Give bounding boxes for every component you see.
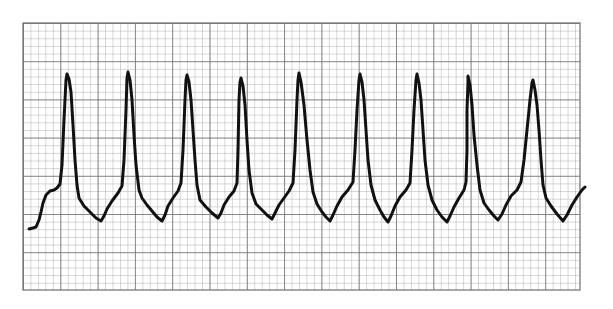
major-grid xyxy=(23,23,580,290)
ecg-strip xyxy=(0,0,613,309)
